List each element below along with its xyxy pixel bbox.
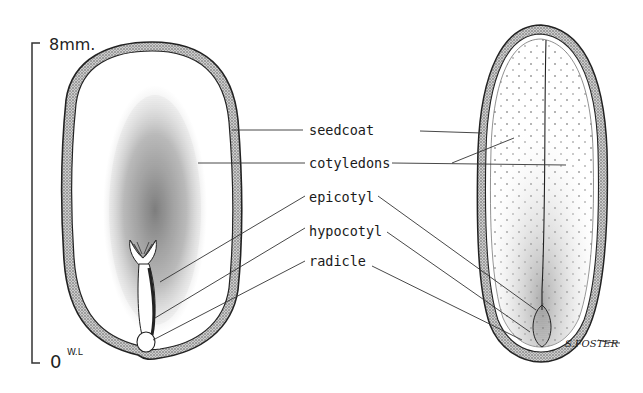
signature-text: S.FOSTER <box>565 338 619 349</box>
label-seedcoat: seedcoat <box>309 122 374 138</box>
scale-bottom-label: 0 <box>50 351 61 372</box>
radicle-shape <box>137 332 155 352</box>
artist-signature: S.FOSTER <box>565 338 620 349</box>
right-seed-figure <box>477 25 607 362</box>
left-seed-figure <box>62 42 242 359</box>
seedcoat-leader-right <box>420 131 482 133</box>
scale-initials: W.L <box>67 347 83 357</box>
scale-top-label: 8mm. <box>49 35 95 54</box>
scale-bracket <box>32 43 40 363</box>
label-radicle: radicle <box>309 253 366 269</box>
seed-diagram: 8mm. 0 W.L <box>0 0 643 393</box>
label-hypocotyl: hypocotyl <box>309 223 382 239</box>
left-stipple-texture <box>109 95 201 325</box>
label-epicotyl: epicotyl <box>309 189 374 205</box>
label-cotyledons: cotyledons <box>309 155 390 171</box>
labels: seedcoat cotyledons epicotyl hypocotyl r… <box>309 122 390 269</box>
